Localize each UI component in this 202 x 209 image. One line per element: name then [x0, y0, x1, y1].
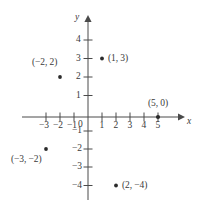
data-point-5-0: [156, 115, 160, 119]
coordinate-plane-figure: x y 0 −3 −2 −1 1 2 3 4 5 4 3 2 1 −1 −2 −…: [0, 0, 202, 209]
y-tick-label--1: −1: [72, 126, 82, 136]
x-axis-label: x: [187, 117, 191, 127]
y-axis-label: y: [75, 13, 79, 23]
point-label-2-neg4: (2, −4): [122, 181, 147, 191]
data-point-neg2-2: [58, 75, 62, 79]
x-tick-label-4: 4: [142, 121, 147, 131]
y-tick-label--4: −4: [72, 181, 82, 191]
x-tick-label--3: −3: [39, 121, 49, 131]
x-axis-arrow-icon: [178, 113, 185, 120]
data-point-neg3-neg2: [44, 147, 48, 151]
data-point-2-neg4: [114, 184, 118, 188]
x-tick-label-1: 1: [100, 121, 105, 131]
axes-and-points-svg: [0, 0, 202, 209]
x-tick-label-2: 2: [114, 121, 119, 131]
point-label-neg2-2: (−2, 2): [32, 58, 57, 68]
y-axis-arrow-icon: [84, 15, 91, 22]
point-label-neg3-neg2: (−3, −2): [11, 155, 42, 165]
x-tick-label--2: −2: [53, 121, 63, 131]
x-tick-label-5: 5: [156, 121, 161, 131]
data-point-1-3: [100, 57, 104, 61]
x-tick-label-3: 3: [128, 121, 133, 131]
y-tick-label-3: 3: [76, 54, 81, 64]
point-label-5-0: (5, 0): [148, 99, 168, 109]
y-tick-label-1: 1: [76, 91, 81, 101]
y-tick-label-4: 4: [76, 35, 81, 45]
y-tick-label--2: −2: [72, 144, 82, 154]
y-tick-label--3: −3: [72, 162, 82, 172]
point-label-1-3: (1, 3): [108, 54, 128, 64]
y-tick-label-2: 2: [76, 72, 81, 82]
